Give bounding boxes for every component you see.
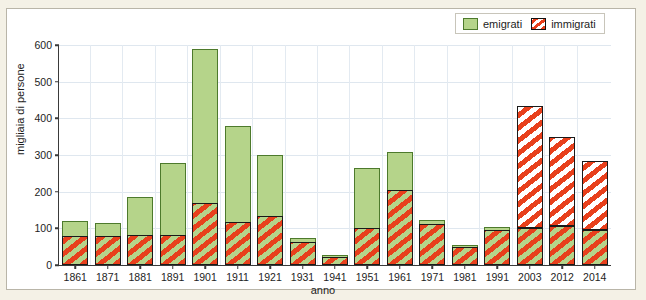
- x-tick-label-2012: 2012: [551, 271, 574, 283]
- bar-segment-immigrati-1871[interactable]: [95, 236, 121, 265]
- chart-legend: emigrati immigrati: [455, 13, 605, 34]
- x-tick-mark-1991: [497, 265, 499, 269]
- bar-segment-immigrati-1921[interactable]: [257, 216, 283, 266]
- x-tick-label-1991: 1991: [486, 271, 509, 283]
- chart-figure: emigrati immigrati migliaia di persone 0…: [0, 0, 646, 300]
- plot-area: 0100200300400500600 18611871188118911901…: [58, 45, 611, 266]
- x-tick-label-2014: 2014: [583, 271, 606, 283]
- y-tick-label-300: 300: [34, 149, 52, 161]
- bar-segment-emigrati-1921[interactable]: [257, 155, 283, 216]
- x-axis-title: anno: [0, 284, 646, 296]
- y-tick-label-0: 0: [46, 259, 52, 271]
- legend-swatch-emigrati-icon: [463, 18, 478, 30]
- bar-group-2003[interactable]: 2003: [517, 45, 543, 265]
- bar-group-1881[interactable]: 1881: [127, 45, 153, 265]
- legend-label-emigrati: emigrati: [483, 18, 522, 30]
- x-tick-mark-2014: [594, 265, 596, 269]
- bar-segment-immigrati-1941[interactable]: [322, 257, 348, 265]
- bar-segment-immigrati-2014[interactable]: [582, 161, 608, 230]
- x-tick-label-1911: 1911: [226, 271, 249, 283]
- bar-segment-immigrati-1891[interactable]: [160, 235, 186, 265]
- x-tick-mark-1891: [172, 265, 174, 269]
- x-tick-label-1861: 1861: [64, 271, 87, 283]
- bar-segment-immigrati-2012[interactable]: [549, 137, 575, 226]
- bar-series-container: 1861187118811891190119111921193119411951…: [59, 45, 611, 265]
- bar-segment-emigrati-2012[interactable]: [549, 226, 575, 265]
- bar-segment-emigrati-1891[interactable]: [160, 163, 186, 235]
- bar-segment-emigrati-1871[interactable]: [95, 223, 121, 236]
- bar-group-1921[interactable]: 1921: [257, 45, 283, 265]
- bar-group-1931[interactable]: 1931: [290, 45, 316, 265]
- x-tick-label-1941: 1941: [323, 271, 346, 283]
- bar-segment-immigrati-1931[interactable]: [290, 242, 316, 265]
- bar-group-1871[interactable]: 1871: [95, 45, 121, 265]
- bar-segment-emigrati-1951[interactable]: [354, 168, 380, 228]
- x-tick-label-1901: 1901: [193, 271, 216, 283]
- x-tick-label-1971: 1971: [421, 271, 444, 283]
- x-tick-label-1891: 1891: [161, 271, 184, 283]
- bar-segment-immigrati-1981[interactable]: [452, 247, 478, 265]
- bar-segment-immigrati-2003[interactable]: [517, 106, 543, 229]
- x-tick-mark-1881: [139, 265, 141, 269]
- bar-segment-immigrati-1881[interactable]: [127, 235, 153, 265]
- x-tick-mark-1931: [302, 265, 304, 269]
- y-tick-label-200: 200: [34, 186, 52, 198]
- x-tick-mark-1971: [432, 265, 434, 269]
- bar-segment-emigrati-1861[interactable]: [62, 221, 88, 236]
- bar-group-1941[interactable]: 1941: [322, 45, 348, 265]
- bar-segment-immigrati-1911[interactable]: [225, 222, 251, 265]
- legend-entry-immigrati[interactable]: immigrati: [531, 18, 596, 30]
- x-tick-label-1981: 1981: [453, 271, 476, 283]
- bar-group-1891[interactable]: 1891: [160, 45, 186, 265]
- bar-segment-emigrati-1961[interactable]: [387, 152, 413, 190]
- bar-group-2014[interactable]: 2014: [582, 45, 608, 265]
- legend-label-immigrati: immigrati: [551, 18, 596, 30]
- y-tick-label-400: 400: [34, 112, 52, 124]
- bar-segment-emigrati-2003[interactable]: [517, 228, 543, 265]
- bar-group-1971[interactable]: 1971: [419, 45, 445, 265]
- x-tick-mark-1901: [204, 265, 206, 269]
- bar-segment-immigrati-1991[interactable]: [484, 230, 510, 265]
- bar-group-1981[interactable]: 1981: [452, 45, 478, 265]
- bar-segment-immigrati-1971[interactable]: [419, 224, 445, 265]
- x-tick-label-1931: 1931: [291, 271, 314, 283]
- x-tick-label-1961: 1961: [388, 271, 411, 283]
- y-axis-title: migliaia di persone: [14, 63, 26, 155]
- bar-group-1901[interactable]: 1901: [192, 45, 218, 265]
- bar-segment-emigrati-2014[interactable]: [582, 230, 608, 265]
- y-tick-label-500: 500: [34, 76, 52, 88]
- bar-segment-immigrati-1861[interactable]: [62, 236, 88, 265]
- legend-swatch-immigrati-icon: [531, 18, 546, 30]
- x-tick-mark-1911: [237, 265, 239, 269]
- bar-group-2012[interactable]: 2012: [549, 45, 575, 265]
- bar-segment-emigrati-1911[interactable]: [225, 126, 251, 221]
- bar-segment-emigrati-1901[interactable]: [192, 49, 218, 203]
- x-tick-mark-1921: [269, 265, 271, 269]
- bar-group-1961[interactable]: 1961: [387, 45, 413, 265]
- bar-segment-immigrati-1961[interactable]: [387, 190, 413, 265]
- bar-segment-immigrati-1901[interactable]: [192, 203, 218, 265]
- x-tick-mark-2003: [529, 265, 531, 269]
- bar-group-1861[interactable]: 1861: [62, 45, 88, 265]
- y-tick-label-600: 600: [34, 39, 52, 51]
- bar-group-1991[interactable]: 1991: [484, 45, 510, 265]
- bar-segment-emigrati-1881[interactable]: [127, 197, 153, 235]
- x-tick-label-2003: 2003: [518, 271, 541, 283]
- x-tick-label-1951: 1951: [356, 271, 379, 283]
- x-tick-label-1871: 1871: [96, 271, 119, 283]
- x-tick-mark-1951: [367, 265, 369, 269]
- x-tick-mark-1941: [334, 265, 336, 269]
- bar-group-1951[interactable]: 1951: [354, 45, 380, 265]
- x-tick-mark-2012: [562, 265, 564, 269]
- x-tick-mark-1981: [464, 265, 466, 269]
- x-tick-mark-1871: [107, 265, 109, 269]
- x-tick-label-1921: 1921: [258, 271, 281, 283]
- legend-entry-emigrati[interactable]: emigrati: [463, 18, 522, 30]
- x-tick-label-1881: 1881: [128, 271, 151, 283]
- bar-segment-immigrati-1951[interactable]: [354, 228, 380, 265]
- x-tick-mark-1961: [399, 265, 401, 269]
- bar-group-1911[interactable]: 1911: [225, 45, 251, 265]
- x-tick-mark-1861: [74, 265, 76, 269]
- y-tick-label-100: 100: [34, 222, 52, 234]
